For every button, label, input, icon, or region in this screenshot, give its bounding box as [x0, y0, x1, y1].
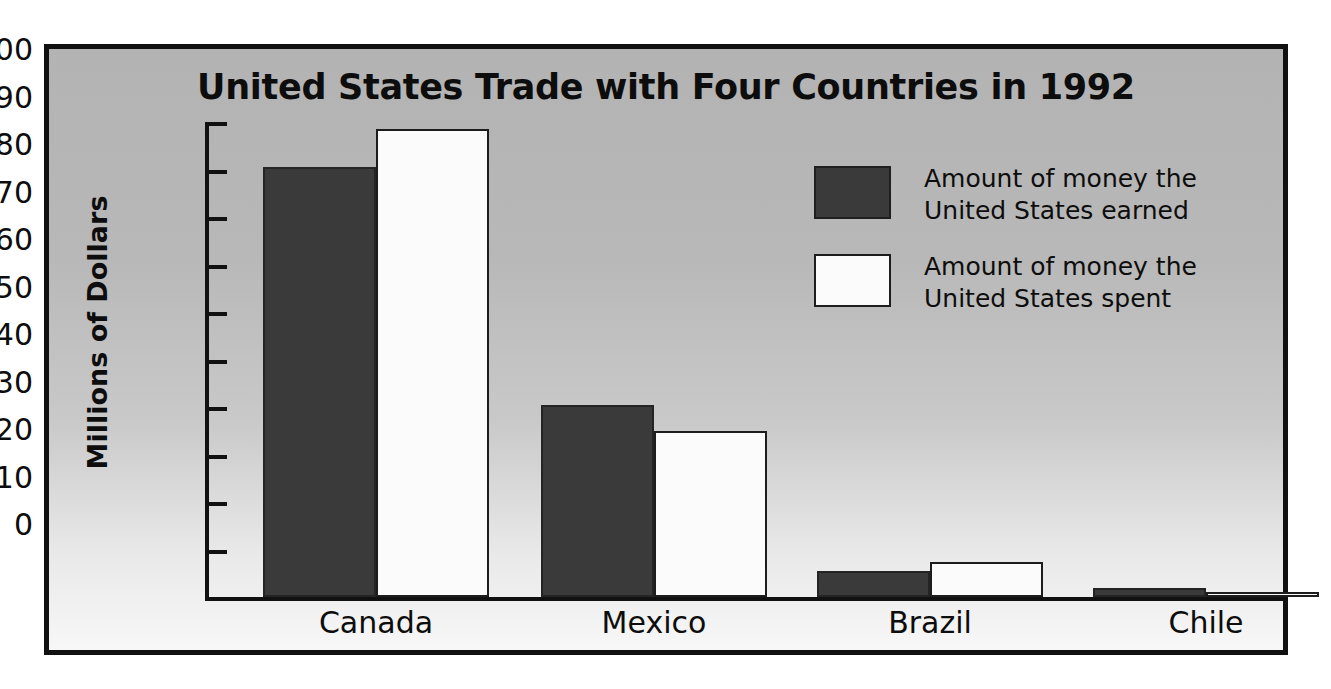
legend-label-spent: Amount of money the United States spent: [924, 251, 1197, 315]
y-tick-label: 20: [0, 412, 33, 447]
y-tick-mark: [205, 550, 227, 554]
y-tick-mark: [205, 455, 227, 459]
category-label-mexico: Mexico: [602, 605, 707, 640]
y-tick-label: 40: [0, 317, 33, 352]
y-tick-mark: [205, 265, 227, 269]
y-tick-mark: [205, 502, 227, 506]
bar-brazil-earned: [817, 571, 930, 597]
y-tick-mark: [205, 407, 227, 411]
chart-title: United States Trade with Four Countries …: [49, 67, 1283, 107]
legend-item-earned: Amount of money the United States earned: [814, 163, 1244, 227]
figure-frame: United States Trade with Four Countries …: [44, 44, 1288, 655]
legend-swatch-earned-icon: [814, 166, 891, 219]
legend-label-spent-line1: Amount of money the: [924, 251, 1197, 283]
bar-canada-earned: [263, 167, 376, 597]
y-tick-label: 60: [0, 222, 33, 257]
chart-page: United States Trade with Four Countries …: [0, 0, 1331, 689]
legend-label-spent-line2: United States spent: [924, 283, 1197, 315]
y-tick-label: 90: [0, 79, 33, 114]
y-tick-label: 80: [0, 127, 33, 162]
bar-chile-earned: [1093, 588, 1206, 598]
legend-label-earned: Amount of money the United States earned: [924, 163, 1197, 227]
category-label-chile: Chile: [1168, 605, 1243, 640]
y-tick-mark: [205, 122, 227, 126]
y-tick-label: 30: [0, 364, 33, 399]
chart-legend: Amount of money the United States earned…: [814, 163, 1244, 339]
bar-mexico-spent: [654, 431, 767, 597]
bar-brazil-spent: [930, 562, 1043, 597]
y-tick-mark: [205, 312, 227, 316]
legend-item-spent: Amount of money the United States spent: [814, 251, 1244, 315]
y-tick-mark: [205, 170, 227, 174]
bar-mexico-earned: [541, 405, 654, 597]
x-axis-category-labels: Canada Mexico Brazil Chile: [205, 605, 1287, 655]
bar-chile-spent: [1206, 592, 1319, 597]
y-tick-label: 50: [0, 269, 33, 304]
legend-swatch-spent-icon: [814, 254, 891, 307]
legend-label-earned-line1: Amount of money the: [924, 163, 1197, 195]
y-tick-label: 10: [0, 459, 33, 494]
y-axis-title: Millions of Dollars: [82, 133, 113, 533]
bar-canada-spent: [376, 129, 489, 597]
x-axis-line: [205, 597, 1287, 601]
y-tick-mark: [205, 217, 227, 221]
y-tick-label: 70: [0, 174, 33, 209]
y-tick-label: 100: [0, 32, 33, 67]
category-label-canada: Canada: [319, 605, 433, 640]
legend-label-earned-line2: United States earned: [924, 195, 1197, 227]
y-axis-tick-labels: 100 90 80 70 60 50 40 30 20 10 0: [0, 49, 33, 524]
y-tick-mark: [205, 360, 227, 364]
y-tick-label: 0: [0, 507, 33, 542]
category-label-brazil: Brazil: [888, 605, 972, 640]
